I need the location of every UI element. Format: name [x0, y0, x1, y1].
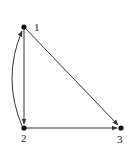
node-3-label: 3: [117, 133, 123, 145]
node-3: [118, 125, 123, 130]
node-2-label: 2: [21, 132, 27, 144]
edge-2-to-1-curved: [12, 31, 22, 126]
node-1-label: 1: [34, 21, 40, 33]
node-1: [21, 24, 26, 29]
node-2: [21, 125, 26, 130]
edge-1-to-3: [25, 28, 118, 125]
graph-diagram: 1 2 3: [0, 0, 132, 151]
